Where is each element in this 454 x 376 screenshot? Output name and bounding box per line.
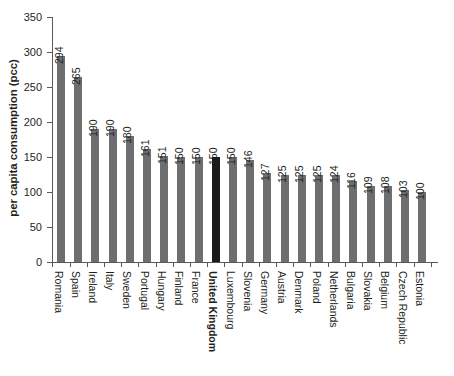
bar [74,77,82,263]
x-axis-category-label: Denmark [293,271,305,314]
x-axis-tick [396,262,397,267]
bar [349,181,357,262]
x-axis-tick [345,262,346,267]
x-axis-tick [328,262,329,267]
y-axis-tick [47,87,52,88]
y-axis-tick [47,227,52,228]
plot-area: 2942651901901801611511501501501501461271… [52,17,438,262]
x-axis-category-label: Portugal [139,271,151,310]
bar [281,175,289,263]
x-axis-tick [70,262,71,267]
x-axis-category-label: Slovakia [362,271,374,311]
bar-value-label: 294 [53,47,65,65]
x-axis-category-label: Romania [53,271,65,313]
bar-value-label: 109 [362,176,374,194]
bar-value-label: 150 [173,147,185,165]
bar-value-label: 146 [242,150,254,168]
x-axis-category-label: Poland [311,271,323,304]
bar-value-label: 127 [259,164,271,182]
bar-value-label: 125 [311,165,323,183]
x-axis-tick [431,262,432,267]
x-axis-category-label: Czech Republic [397,271,409,345]
bar-value-label: 116 [345,172,357,189]
bar [384,186,392,262]
bar [315,175,323,263]
x-axis-category-label: Sweden [121,271,133,309]
y-axis-tick [47,157,52,158]
y-axis-tick [47,122,52,123]
x-axis-category-label: Bulgaria [345,271,357,310]
x-axis-tick [259,262,260,267]
x-axis-category-label: Ireland [87,271,99,303]
bar [160,156,168,262]
bar-value-label: 180 [121,126,133,144]
x-axis-tick [310,262,311,267]
x-axis-tick [207,262,208,267]
x-axis-category-label: Hungary [156,271,168,311]
bar [177,157,185,262]
bar-value-label: 190 [87,119,99,137]
bar-value-label: 125 [293,165,305,183]
x-axis-tick [52,262,53,267]
bar [195,157,203,262]
bar [332,175,340,262]
x-axis-tick [276,262,277,267]
bar [246,160,254,262]
y-axis-tick [47,52,52,53]
bar-value-label: 108 [379,177,391,195]
bar-value-label: 150 [225,147,237,165]
x-axis-tick [379,262,380,267]
x-axis-category-label: United Kingdom [207,271,219,352]
x-axis-category-label: Slovenia [242,271,254,311]
y-axis-tick-label: 350 [12,11,42,23]
y-axis-tick [47,262,52,263]
x-axis-tick [414,262,415,267]
bar [143,149,151,262]
bar [401,190,409,262]
x-axis-category-label: Italy [104,271,116,290]
bar-value-label: 190 [104,119,116,137]
bar-chart: per capita consumption (pcc) 05010015020… [0,0,454,376]
bar-value-label: 151 [156,147,168,165]
bar [298,175,306,263]
x-axis-tick [121,262,122,267]
y-axis-tick-label: 200 [12,116,42,128]
bar [109,129,117,262]
x-axis-category-label: Finland [173,271,185,305]
bar-value-label: 125 [276,165,288,183]
bar-value-label: 100 [414,182,426,200]
y-axis-tick-label: 250 [12,81,42,93]
y-axis-tick [47,192,52,193]
x-axis-tick [362,262,363,267]
bar-value-label: 150 [207,147,219,165]
bar [212,157,220,262]
y-axis-tick-label: 150 [12,151,42,163]
x-axis-category-label: Netherlands [328,271,340,328]
y-axis-tick-label: 50 [12,221,42,233]
bar [91,129,99,262]
x-axis-tick [138,262,139,267]
y-axis-tick-label: 100 [12,186,42,198]
x-axis-category-label: Germany [259,271,271,314]
x-axis-category-label: Spain [70,271,82,298]
x-axis-tick [87,262,88,267]
bar [418,192,426,262]
bar-value-label: 265 [70,67,82,85]
x-axis-tick [242,262,243,267]
bar-value-label: 124 [328,166,340,184]
x-axis-category-label: France [190,271,202,304]
x-axis-tick [293,262,294,267]
bar [263,173,271,262]
x-axis-category-label: Estonia [414,271,426,306]
bar-value-label: 103 [397,180,409,198]
bar [126,136,134,262]
y-axis-title: per capita consumption (pcc) [4,48,22,228]
x-axis-category-label: Luxembourg [225,271,237,329]
x-axis-tick [104,262,105,267]
y-axis-tick-label: 0 [12,256,42,268]
x-axis-tick [173,262,174,267]
bar-value-label: 150 [190,147,202,165]
y-axis-tick-label: 300 [12,46,42,58]
bar [57,56,65,262]
x-axis-tick [156,262,157,267]
